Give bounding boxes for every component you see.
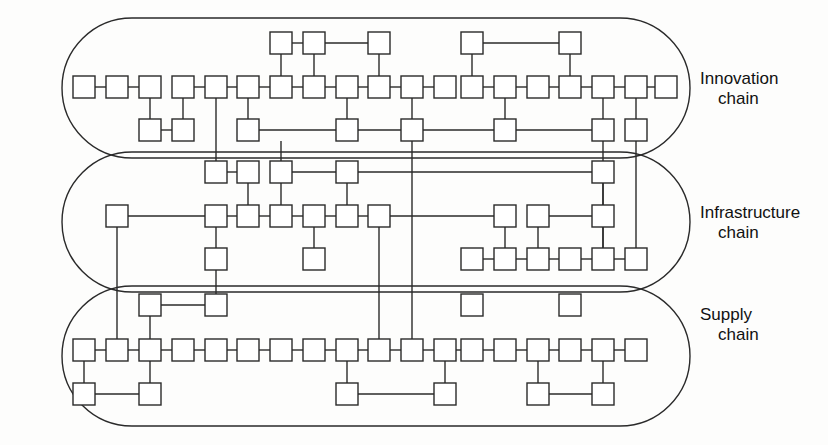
node-im12[interactable] bbox=[434, 76, 456, 98]
node-sm11[interactable] bbox=[401, 339, 423, 361]
node-fb7[interactable] bbox=[592, 248, 614, 270]
lane-label-infrastructure-line2: chain bbox=[718, 223, 759, 242]
node-it2[interactable] bbox=[303, 32, 325, 54]
node-ib3[interactable] bbox=[237, 119, 259, 141]
lane-label-supply-line2: chain bbox=[718, 325, 759, 344]
node-it4[interactable] bbox=[461, 32, 483, 54]
node-fm4[interactable] bbox=[303, 205, 325, 227]
node-fm8[interactable] bbox=[527, 205, 549, 227]
node-ib4[interactable] bbox=[336, 119, 358, 141]
node-sb6[interactable] bbox=[592, 383, 614, 405]
node-im7[interactable] bbox=[270, 76, 292, 98]
node-fm9[interactable] bbox=[592, 205, 614, 227]
node-sm7[interactable] bbox=[270, 339, 292, 361]
node-ft2[interactable] bbox=[237, 161, 259, 183]
node-im19[interactable] bbox=[655, 76, 677, 98]
node-fb3[interactable] bbox=[461, 248, 483, 270]
node-im14[interactable] bbox=[494, 76, 516, 98]
node-im9[interactable] bbox=[336, 76, 358, 98]
node-fb2[interactable] bbox=[303, 248, 325, 270]
node-sb3[interactable] bbox=[336, 383, 358, 405]
node-sb5[interactable] bbox=[527, 383, 549, 405]
node-im3[interactable] bbox=[139, 76, 161, 98]
node-fm0[interactable] bbox=[106, 205, 128, 227]
node-fm5[interactable] bbox=[336, 205, 358, 227]
node-fm6[interactable] bbox=[368, 205, 390, 227]
node-st4[interactable] bbox=[559, 294, 581, 316]
diagram-canvas: InnovationchainInfrastructurechainSupply… bbox=[0, 0, 828, 445]
node-fb5[interactable] bbox=[527, 248, 549, 270]
node-im16[interactable] bbox=[559, 76, 581, 98]
node-ib8[interactable] bbox=[625, 119, 647, 141]
node-fb4[interactable] bbox=[494, 248, 516, 270]
node-sm1[interactable] bbox=[73, 339, 95, 361]
node-ib1[interactable] bbox=[139, 119, 161, 141]
node-it3[interactable] bbox=[368, 32, 390, 54]
node-sm17[interactable] bbox=[592, 339, 614, 361]
node-sm18[interactable] bbox=[625, 339, 647, 361]
lane-label-infrastructure: Infrastructure bbox=[700, 203, 800, 222]
node-im10[interactable] bbox=[368, 76, 390, 98]
node-st2[interactable] bbox=[205, 294, 227, 316]
node-sm12[interactable] bbox=[434, 339, 456, 361]
node-fm1[interactable] bbox=[205, 205, 227, 227]
node-fm7[interactable] bbox=[494, 205, 516, 227]
node-im1[interactable] bbox=[73, 76, 95, 98]
node-im18[interactable] bbox=[625, 76, 647, 98]
node-sm8[interactable] bbox=[303, 339, 325, 361]
node-fb8[interactable] bbox=[625, 248, 647, 270]
node-st1[interactable] bbox=[139, 294, 161, 316]
node-sb1[interactable] bbox=[73, 383, 95, 405]
node-fm3[interactable] bbox=[270, 205, 292, 227]
node-sm3[interactable] bbox=[139, 339, 161, 361]
node-sm13[interactable] bbox=[461, 339, 483, 361]
node-fm2[interactable] bbox=[237, 205, 259, 227]
node-fb6[interactable] bbox=[559, 248, 581, 270]
network-diagram: InnovationchainInfrastructurechainSupply… bbox=[0, 0, 828, 445]
node-ft1[interactable] bbox=[205, 161, 227, 183]
node-im8[interactable] bbox=[303, 76, 325, 98]
node-ft5[interactable] bbox=[592, 161, 614, 183]
node-im11[interactable] bbox=[401, 76, 423, 98]
node-sm5[interactable] bbox=[205, 339, 227, 361]
node-sb4[interactable] bbox=[434, 383, 456, 405]
node-sm4[interactable] bbox=[172, 339, 194, 361]
node-ib2[interactable] bbox=[172, 119, 194, 141]
node-sm9[interactable] bbox=[336, 339, 358, 361]
node-ib6[interactable] bbox=[494, 119, 516, 141]
lane-label-layer: InnovationchainInfrastructurechainSupply… bbox=[700, 69, 800, 344]
node-im13[interactable] bbox=[461, 76, 483, 98]
node-it5[interactable] bbox=[559, 32, 581, 54]
lane-label-innovation-line2: chain bbox=[718, 89, 759, 108]
node-sm10[interactable] bbox=[368, 339, 390, 361]
node-layer bbox=[73, 32, 677, 405]
node-im15[interactable] bbox=[527, 76, 549, 98]
lane-label-innovation: Innovation bbox=[700, 69, 778, 88]
node-fb1[interactable] bbox=[205, 248, 227, 270]
node-ft3[interactable] bbox=[270, 161, 292, 183]
node-ib5[interactable] bbox=[401, 119, 423, 141]
node-it1[interactable] bbox=[270, 32, 292, 54]
node-sm6[interactable] bbox=[237, 339, 259, 361]
node-im4[interactable] bbox=[172, 76, 194, 98]
node-st3[interactable] bbox=[461, 294, 483, 316]
node-sm15[interactable] bbox=[527, 339, 549, 361]
node-sm14[interactable] bbox=[494, 339, 516, 361]
node-im6[interactable] bbox=[237, 76, 259, 98]
node-im17[interactable] bbox=[592, 76, 614, 98]
node-sb2[interactable] bbox=[139, 383, 161, 405]
node-sm16[interactable] bbox=[559, 339, 581, 361]
node-ib7[interactable] bbox=[592, 119, 614, 141]
node-sm2[interactable] bbox=[106, 339, 128, 361]
lane-label-supply: Supply bbox=[700, 305, 752, 324]
node-ft4[interactable] bbox=[336, 161, 358, 183]
node-im5[interactable] bbox=[205, 76, 227, 98]
node-im2[interactable] bbox=[106, 76, 128, 98]
